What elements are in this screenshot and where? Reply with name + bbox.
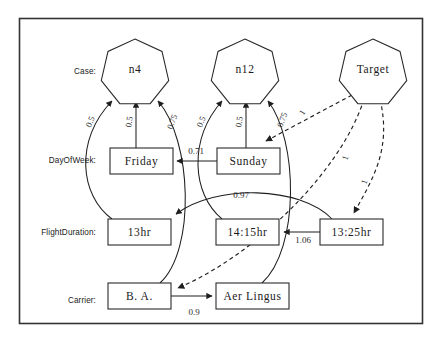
row-label-case: Case: [74,67,96,76]
weight-target-sunday: 1 [297,108,308,117]
weight-1325hr-13hr: 0.97 [233,190,249,200]
edge-aerlingus-to-n12 [262,101,291,283]
row-label-dayofweek: DayOfWeek: [49,156,96,165]
weight-1325hr-1415hr: 1.06 [295,235,311,245]
weight-friday-n4: 0.5 [123,116,135,128]
weight-ba-aerlingus: 0.9 [188,307,200,317]
node-target-label: Target [357,63,390,76]
node-sunday-label: Sunday [229,155,267,168]
node-1325hr-label: 13:25hr [332,226,372,238]
edge-target-to-1325hr [354,99,384,213]
node-friday-label: Friday [125,155,159,168]
edge-1325hr-to-13hr [176,193,332,219]
node-ba-label: B. A. [126,290,153,302]
node-n4-label: n4 [129,63,142,75]
bayesian-network-diagram: n4 n12 Target Friday Sunday 13hr 14:15hr… [0,0,442,351]
weight-sunday-n12: 0.5 [233,116,245,128]
weight-ba-n4: 0.75 [165,113,180,131]
node-n12-label: n12 [235,63,254,75]
node-aerlingus-label: Aer Lingus [223,290,281,303]
weight-aerlingus-n12: 0.75 [275,111,290,129]
weight-sunday-friday: 0.71 [188,146,204,156]
row-label-carrier: Carrier: [68,296,96,305]
weight-target-ba: 1 [359,178,370,185]
node-1415hr-label: 14:15hr [228,226,268,238]
row-label-flightduration: FlightDuration: [41,228,96,237]
weight-target-1325hr: 1 [340,154,351,161]
diagram-canvas: n4 n12 Target Friday Sunday 13hr 14:15hr… [0,0,442,351]
node-13hr-label: 13hr [128,226,151,238]
